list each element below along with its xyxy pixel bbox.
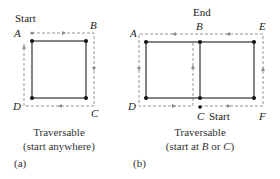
- arrow-right-icon: [227, 104, 231, 108]
- vertex-e: [252, 40, 256, 44]
- arrow-right-icon: [172, 104, 176, 108]
- arrow-right-icon: [62, 31, 66, 35]
- vertex-label-a: A: [129, 27, 137, 39]
- start-label: Start: [15, 12, 36, 24]
- vertex-c: [84, 96, 88, 100]
- arrow-up-icon: [191, 65, 195, 69]
- arrow-down-icon: [137, 67, 141, 71]
- vertex-d: [144, 96, 148, 100]
- square-graph: [32, 41, 86, 98]
- caption-a-line1: Traversable: [33, 126, 85, 138]
- vertex-b: [84, 39, 88, 43]
- vertex-label-d: D: [127, 100, 136, 112]
- traversability-diagram: Start A B C D Traversable (start anywher…: [0, 0, 280, 179]
- vertex-b: [198, 40, 202, 44]
- start-point: [198, 105, 202, 109]
- end-label: End: [193, 6, 211, 18]
- arrow-up-icon: [261, 67, 265, 71]
- vertex-label-f: F: [258, 110, 266, 122]
- vertex-label-d: D: [12, 100, 21, 112]
- arrow-up-icon: [22, 45, 26, 49]
- vertex-label-a: A: [13, 27, 21, 39]
- caption-b-line1: Traversable: [174, 126, 226, 138]
- vertex-label-c: C: [91, 107, 99, 119]
- arrow-left-icon: [58, 104, 62, 108]
- panel-b: End A B E D C Start F: [127, 6, 266, 170]
- panel-label-b: (b): [133, 157, 146, 170]
- caption-b-line2: (start at B or C): [166, 140, 235, 153]
- vertex-c: [198, 96, 202, 100]
- arrow-left-icon: [172, 32, 176, 36]
- arrow-left-icon: [226, 32, 230, 36]
- vertex-label-b: B: [196, 20, 203, 32]
- vertex-f: [252, 96, 256, 100]
- vertex-d: [30, 96, 34, 100]
- start-point: [30, 31, 33, 34]
- vertex-label-e: E: [258, 20, 266, 32]
- panel-label-a: (a): [14, 157, 27, 170]
- vertex-label-c: C: [197, 110, 205, 122]
- arrow-down-icon: [92, 67, 96, 71]
- start-label: Start: [209, 110, 230, 122]
- vertex-a: [30, 39, 34, 43]
- vertex-a: [144, 40, 148, 44]
- vertex-label-b: B: [90, 19, 97, 31]
- caption-a-line2: (start anywhere): [23, 140, 95, 153]
- panel-a: Start A B C D Traversable (start anywher…: [12, 12, 99, 170]
